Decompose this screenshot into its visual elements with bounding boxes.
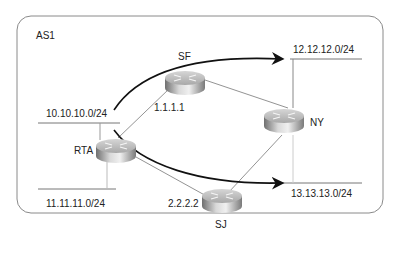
router-name-ny: NY: [310, 118, 324, 128]
router-ip-sj: 2.2.2.2: [168, 199, 199, 209]
router-ny-icon[interactable]: [264, 109, 304, 133]
router-ip-sf: 1.1.1.1: [154, 103, 185, 113]
subnet-10-line: [38, 123, 120, 140]
network-label-10: 10.10.10.0/24: [46, 109, 107, 119]
network-label-12: 12.12.12.0/24: [293, 45, 354, 55]
router-name-sf: SF: [178, 52, 191, 62]
router-name-sj: SJ: [215, 220, 227, 230]
traffic-arrow-to-13: [114, 130, 282, 183]
router-sj-icon[interactable]: [202, 189, 242, 213]
router-name-rta: RTA: [74, 146, 93, 156]
as-label: AS1: [36, 31, 55, 41]
network-label-11: 11.11.11.0/24: [46, 199, 105, 209]
router-sf-icon[interactable]: [165, 71, 205, 95]
link-rta-sj: [136, 157, 210, 198]
subnet-12-line: [290, 59, 362, 108]
link-sj-ny: [228, 135, 282, 193]
subnet-13-line: [270, 135, 362, 183]
network-label-13: 13.13.13.0/24: [291, 189, 352, 199]
link-sf-ny: [205, 80, 288, 108]
subnet-11-line: [38, 160, 116, 189]
network-diagram: AS1 SF 1.1.1.1 RTA NY 2.2.2.2 SJ 10.10.1…: [0, 0, 399, 259]
router-rta-icon[interactable]: [96, 139, 136, 163]
